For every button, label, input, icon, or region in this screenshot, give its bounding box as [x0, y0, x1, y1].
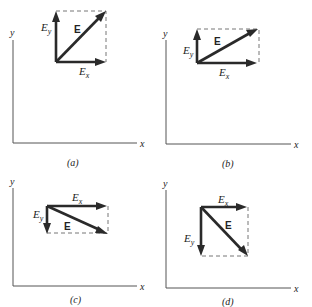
- e-vector-d: [201, 207, 242, 250]
- y-axis-label-d: y: [162, 178, 168, 189]
- ey-label-d: Ey: [183, 232, 195, 247]
- axes-a: [13, 40, 137, 143]
- e-label-a: E: [74, 24, 81, 35]
- ey-label-c: Ey: [32, 208, 44, 223]
- panel-d: y x Ex Ey E (d): [162, 178, 299, 307]
- ex-label-a: Ex: [78, 65, 90, 80]
- ey-arrowhead-d: [197, 245, 205, 256]
- ex-arrowhead-b: [246, 59, 257, 67]
- caption-b: (b): [222, 158, 234, 170]
- caption-d: (d): [222, 296, 234, 307]
- caption-a: (a): [67, 157, 79, 169]
- e-vector-b: [197, 33, 250, 63]
- ex-label-b: Ex: [218, 66, 230, 81]
- caption-c: (c): [70, 294, 82, 306]
- e-label-b: E: [214, 36, 221, 47]
- ey-arrowhead-b: [193, 29, 201, 40]
- e-label-d: E: [225, 220, 232, 231]
- e-label-c: E: [64, 221, 71, 232]
- ex-arrowhead-d: [236, 203, 247, 211]
- x-axis-label-a: x: [139, 138, 145, 149]
- e-arrowhead-b: [246, 29, 258, 37]
- ey-arrowhead-a: [52, 11, 60, 22]
- ey-label-b: Ey: [182, 44, 194, 59]
- ex-arrowhead-a: [95, 58, 106, 66]
- ex-label-c: Ex: [71, 191, 83, 206]
- panel-c: y x Ex Ey E (c): [9, 176, 145, 306]
- y-axis-label-b: y: [162, 28, 168, 39]
- x-axis-label-c: x: [139, 281, 145, 292]
- x-axis-label-b: x: [293, 139, 299, 150]
- panel-b: y x Ey E Ex (b): [162, 28, 299, 170]
- ey-label-a: Ey: [40, 21, 52, 36]
- vector-decomposition-diagram: y x Ey E Ex (a) y x Ey E Ex (b): [0, 0, 312, 307]
- e-vector-c: [47, 206, 100, 230]
- y-axis-label-a: y: [9, 27, 15, 38]
- panel-a: y x Ey E Ex (a): [9, 11, 145, 169]
- ey-arrowhead-c: [43, 223, 51, 234]
- ex-arrowhead-c: [96, 202, 107, 210]
- y-axis-label-c: y: [9, 176, 15, 187]
- x-axis-label-d: x: [293, 283, 299, 294]
